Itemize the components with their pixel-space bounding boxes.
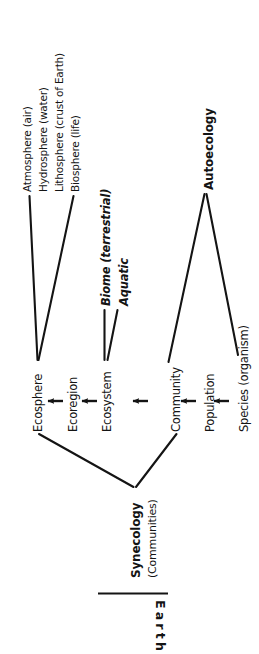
label-synecology-sublabel: (Communities) [147, 499, 158, 578]
label-atmosphere: Atmosphere (air) [22, 106, 33, 192]
autoecology-connectors [169, 194, 239, 362]
label-lithosphere: Lithosphere (crust of Earth) [54, 53, 65, 192]
label-hydrosphere: Hydrosphere (water) [38, 87, 49, 192]
label-ecoregion: Ecoregion [68, 377, 80, 432]
label-biome-terrestrial: Biome (terrestrial) [101, 189, 113, 306]
label-synecology: Synecology [130, 503, 142, 578]
label-aquatic: Aquatic [119, 258, 131, 306]
label-autoecology: Autoecology [203, 108, 215, 190]
ecosystem-type-connectors [105, 310, 118, 360]
label-biosphere: Biosphere (life) [70, 115, 81, 192]
label-ecosystem: Ecosystem [102, 372, 114, 432]
label-population: Population [205, 374, 217, 432]
label-earth: Earth [154, 600, 167, 654]
label-ecosphere: Ecosphere [33, 374, 45, 432]
synecology-connectors [39, 434, 177, 487]
label-species-organism: Species (organism) [239, 325, 251, 432]
label-community: Community [171, 367, 183, 432]
ecosphere-bracket-connectors [30, 196, 74, 360]
